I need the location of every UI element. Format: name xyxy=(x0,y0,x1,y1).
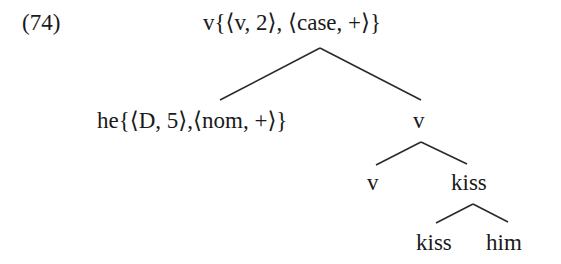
node-v-head: v xyxy=(367,170,379,196)
node-root: v{⟨v, 2⟩, ⟨case, +⟩} xyxy=(203,10,381,36)
node-specifier: he{⟨D, 5⟩,⟨nom, +⟩} xyxy=(97,108,287,134)
edge-vp-object xyxy=(473,204,508,222)
node-vbar: v xyxy=(413,108,425,134)
node-object: him xyxy=(486,230,522,256)
edge-root-vbar xyxy=(320,48,421,100)
edge-vp-verb xyxy=(436,204,473,223)
edge-vbar-vp xyxy=(421,142,467,164)
node-vp: kiss xyxy=(451,170,487,196)
node-verb: kiss xyxy=(416,230,452,256)
edge-vbar-vhead xyxy=(376,142,421,165)
edge-root-specifier xyxy=(220,48,320,100)
example-number: (74) xyxy=(22,10,60,36)
